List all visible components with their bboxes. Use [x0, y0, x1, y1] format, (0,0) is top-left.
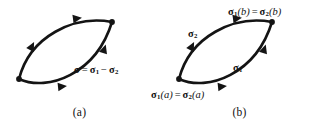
panel-b-caption: (b)	[160, 106, 319, 118]
equation-equals: =	[80, 64, 90, 75]
top-label-equals: =	[250, 6, 260, 17]
top-label-right-argument: (b)	[269, 6, 281, 17]
equation-lhs-symbol: σ	[74, 64, 80, 75]
figure-container: σ=σ1−σ2 (a) σ1(b)=σ2(b)	[0, 0, 319, 132]
top-label-left-argument: (b)	[237, 6, 249, 17]
equation-term2-subscript: 2	[115, 68, 119, 75]
bottom-label-right-argument: (a)	[192, 89, 204, 100]
bottom-label-left-argument: (a)	[160, 89, 172, 100]
equation-term2-symbol: σ	[109, 64, 115, 75]
panel-a: σ=σ1−σ2 (a)	[0, 0, 159, 132]
bottom-label-left-symbol: σ	[151, 89, 157, 100]
endpoint-dot-end	[269, 19, 275, 25]
endpoint-dot-start	[16, 76, 22, 82]
panel-b-upper-arc-label: σ2	[188, 29, 197, 40]
panel-b: σ1(b)=σ2(b) σ1(a)=σ2(a) σ2 σ1 (b)	[160, 0, 319, 132]
equation-operator: −	[99, 64, 109, 75]
panel-b-lower-arc-label: σ1	[233, 63, 242, 74]
upper-arc-label-symbol: σ	[188, 28, 194, 39]
panel-a-caption: (a)	[0, 106, 159, 118]
panel-b-top-endpoint-label: σ1(b)=σ2(b)	[228, 7, 281, 18]
upper-arc-label-subscript: 2	[194, 32, 198, 39]
top-label-left-symbol: σ	[228, 6, 234, 17]
lower-arc-label-symbol: σ	[233, 62, 239, 73]
panel-a-equation: σ=σ1−σ2	[74, 65, 118, 76]
endpoint-dot-start	[176, 76, 182, 82]
lower-arc-label-subscript: 1	[239, 66, 243, 73]
bottom-label-equals: =	[173, 89, 183, 100]
endpoint-dot-end	[109, 19, 115, 25]
panel-b-bottom-endpoint-label: σ1(a)=σ2(a)	[151, 90, 204, 101]
